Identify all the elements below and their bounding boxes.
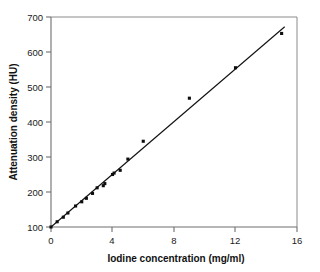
data-point [112, 172, 115, 175]
x-tick-label: 0 [48, 235, 53, 246]
data-point [188, 97, 191, 100]
y-tick-label: 500 [27, 82, 43, 93]
data-point [126, 158, 129, 161]
data-point [280, 32, 283, 35]
data-point [91, 192, 94, 195]
data-point [80, 200, 83, 203]
y-tick-label: 600 [27, 47, 43, 58]
data-point [142, 140, 145, 143]
x-axis-title: Iodine concentration (mg/ml) [107, 253, 244, 264]
y-tick-label: 200 [27, 187, 43, 198]
data-point [85, 197, 88, 200]
data-point [49, 225, 52, 228]
scatter-plot: 700 600 500 400 300 200 100 0 4 8 12 16 [0, 0, 320, 272]
y-tick-label: 300 [27, 152, 43, 163]
x-tick-label: 16 [292, 235, 303, 246]
data-point [234, 66, 237, 69]
data-point [66, 211, 69, 214]
data-point [96, 186, 99, 189]
data-point [74, 204, 77, 207]
data-point [56, 220, 59, 223]
figure-background [0, 0, 320, 272]
data-point [119, 169, 122, 172]
x-tick-label: 4 [109, 235, 114, 246]
data-point [62, 216, 65, 219]
y-tick-label: 400 [27, 117, 43, 128]
x-tick-label: 8 [171, 235, 176, 246]
x-tick-label: 12 [230, 235, 241, 246]
y-tick-label: 100 [27, 222, 43, 233]
y-tick-label: 700 [27, 12, 43, 23]
chart-figure: 700 600 500 400 300 200 100 0 4 8 12 16 [0, 0, 320, 272]
y-axis-title: Attenuation density (HU) [8, 63, 19, 180]
data-point [103, 182, 106, 185]
